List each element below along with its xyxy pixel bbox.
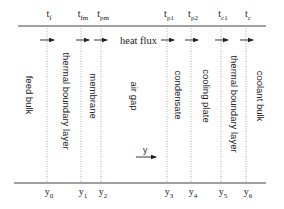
- temperature-label-tc1: tc1: [218, 8, 228, 22]
- heat-flux-label: heat flux: [120, 35, 158, 46]
- position-label-y1: y1: [79, 186, 88, 200]
- position-label-y6: y6: [244, 186, 253, 200]
- position-label-y5: y5: [219, 186, 228, 200]
- temperature-label-tp1: tp1: [164, 8, 174, 22]
- membrane-distillation-diagram: tftfmtpmtp1tp2tc1tc y0y1y2y3y4y5y6 heat …: [0, 0, 284, 209]
- position-label-y4: y4: [189, 186, 198, 200]
- region-label-air-gap: air gap: [129, 81, 140, 110]
- temperature-label-tc: tc: [245, 8, 251, 22]
- position-label-y2: y2: [99, 186, 108, 200]
- region-label-feed-bulk: feed bulk: [24, 76, 35, 115]
- temperature-label-tpm: tpm: [97, 8, 109, 22]
- region-label-membrane: membrane: [88, 73, 99, 118]
- temperature-label-tfm: tfm: [78, 8, 89, 22]
- position-label-y3: y3: [165, 186, 174, 200]
- temperature-label-tp2: tp2: [188, 8, 198, 22]
- temperature-label-tf: tf: [46, 8, 52, 22]
- direction-label: y: [143, 145, 148, 155]
- region-label-condensate: condensate: [173, 70, 184, 119]
- region-label-cooling-plate: cooling plate: [201, 69, 212, 122]
- region-label-thermal-boundary-layer: thermal boundary layer: [61, 52, 72, 149]
- region-label-thermal-boundary-layer: thermal boundary layer: [229, 55, 240, 152]
- position-label-y0: y0: [45, 186, 54, 200]
- region-label-coolant-bulk: coolant bulk: [255, 71, 266, 122]
